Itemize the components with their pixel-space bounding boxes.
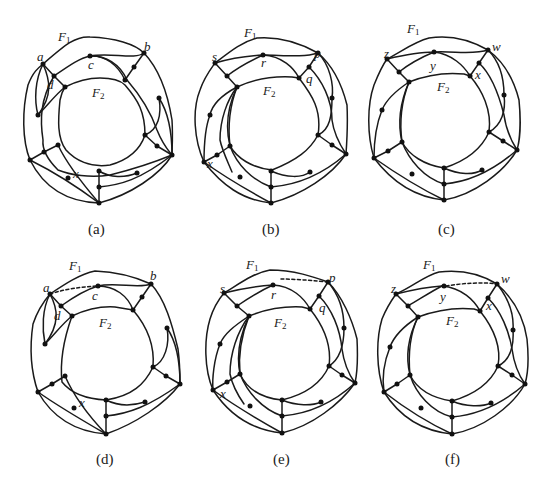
panel-caption-e: (e) [273,452,290,467]
panel-b: F1 F2 s p r q x (b) [182,0,364,244]
face-label-f1: F1 [407,22,419,37]
vertex-label-b: b [150,269,157,282]
panel-caption-b: (b) [262,222,280,237]
vertex-label-s: s [212,50,217,63]
face-label-f2: F2 [99,316,111,331]
vertex-label-x: x [220,387,226,400]
graph-drawing-b [182,0,364,244]
face-label-letter: F [437,79,445,94]
vertex-label-s: s [220,282,225,295]
panel-caption-d: (d) [96,452,114,467]
face-label-letter: F [92,85,100,100]
vertex-label-p: p [314,47,321,60]
face-label-subscript: 1 [431,263,436,273]
panel-a: F1 F2 a b c d x (a) [0,0,182,244]
vertex-label-x: x [486,299,492,312]
vertex-label-r: r [271,288,276,301]
vertex-label-p: p [329,271,336,284]
face-label-letter: F [274,315,282,330]
vertex-label-w: w [501,272,510,285]
face-label-subscript: 2 [445,85,450,95]
vertex-label-y: y [440,290,446,303]
face-label-subscript: 1 [66,35,71,45]
face-label-f1: F1 [69,259,81,274]
face-label-f2: F2 [92,86,104,101]
vertex-label-a: a [37,50,44,63]
face-label-f1: F1 [423,258,435,273]
vertex-label-z: z [384,47,389,60]
panel-caption-c: (c) [438,222,455,237]
vertex-label-d: d [54,309,61,322]
panel-d: F1 F2 a b c d x (d) [0,244,182,488]
vertex-label-x: x [207,157,213,170]
vertex-label-c: c [88,58,94,71]
face-label-subscript: 2 [282,321,287,331]
figure: F1 F2 a b c d x (a) [0,0,547,488]
face-label-letter: F [58,29,66,44]
face-label-subscript: 1 [252,31,257,41]
face-label-letter: F [263,83,271,98]
face-label-f2: F2 [274,316,286,331]
vertex-label-y: y [430,59,436,72]
panel-caption-a: (a) [88,222,105,237]
face-label-subscript: 2 [107,321,112,331]
vertex-label-x: x [475,68,481,81]
face-label-subscript: 1 [254,263,259,273]
face-label-f2: F2 [446,314,458,329]
face-label-subscript: 2 [100,91,105,101]
face-label-letter: F [99,315,107,330]
panel-f: F1 F2 z w y x (f) [364,244,546,488]
face-label-letter: F [244,25,252,40]
vertex-label-c: c [92,289,98,302]
face-label-f1: F1 [244,26,256,41]
vertex-label-d: d [47,78,54,91]
face-label-letter: F [407,21,415,36]
vertex-label-r: r [261,56,266,69]
face-label-f2: F2 [263,84,275,99]
face-label-subscript: 2 [271,89,276,99]
face-label-subscript: 2 [454,319,459,329]
face-label-letter: F [446,313,454,328]
panel-c: F1 F2 z w y x (c) [364,0,546,244]
face-label-subscript: 1 [415,27,420,37]
vertex-label-q: q [306,72,313,85]
vertex-label-z: z [391,282,396,295]
graph-drawing-a [0,0,182,244]
face-label-f1: F1 [246,258,258,273]
panel-caption-f: (f) [445,452,460,467]
face-label-f2: F2 [437,80,449,95]
vertex-label-a: a [43,281,50,294]
graph-drawing-c [364,0,546,244]
vertex-label-q: q [319,301,326,314]
panel-e: F1 F2 s p r q x (e) [182,244,364,488]
face-label-f1: F1 [58,30,70,45]
vertex-label-x: x [79,396,85,409]
vertex-label-b: b [144,40,151,53]
vertex-label-w: w [492,40,501,53]
face-label-letter: F [423,257,431,272]
face-label-letter: F [246,257,254,272]
face-label-letter: F [69,258,77,273]
face-label-subscript: 1 [77,264,82,274]
vertex-label-x: x [73,167,79,180]
